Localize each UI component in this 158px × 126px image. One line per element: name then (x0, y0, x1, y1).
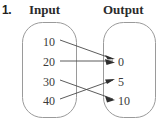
input-value-2: 20 (29, 55, 55, 70)
arrow-line-10-to-0 (60, 40, 113, 59)
arrowheads (105, 55, 115, 103)
mapping-diagram-figure: 1. Input Output 10 20 30 40 0 5 10 (0, 0, 158, 126)
output-value-1: 0 (118, 55, 124, 70)
input-value-4: 40 (29, 94, 55, 109)
arrowhead-to-5 (105, 79, 115, 84)
output-value-3: 10 (118, 94, 130, 109)
arrowhead-to-10 (105, 96, 115, 103)
mapping-arrows-svg (0, 0, 158, 126)
input-value-1: 10 (29, 35, 55, 50)
output-value-2: 5 (118, 75, 124, 90)
input-value-3: 30 (29, 75, 55, 90)
arrowhead-to-0-lower (105, 59, 115, 65)
arrowhead-to-0-upper (105, 55, 115, 60)
